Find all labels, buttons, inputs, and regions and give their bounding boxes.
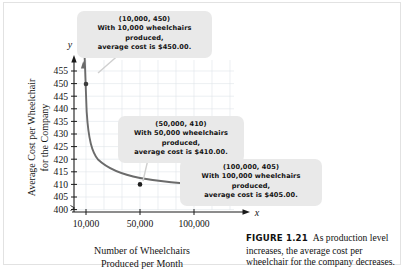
y-axis-title: Average Cost per Wheelchair for the Comp… <box>26 53 51 223</box>
callout-line-1: With 100,000 wheelchairs produced, <box>187 172 315 191</box>
y-axis-variable-label: y <box>67 39 73 50</box>
callout-coordinate: (50,000, 410) <box>125 120 237 129</box>
callout-10000: (10,000, 450) With 10,000 wheelchairs pr… <box>77 11 212 58</box>
y-tick-label: 450 <box>54 78 69 89</box>
callout-50000: (50,000, 410) With 50,000 wheelchairs pr… <box>118 116 244 163</box>
callout-coordinate: (100,000, 405) <box>187 163 315 172</box>
y-tick-label: 440 <box>54 103 69 114</box>
x-tick-label: 100,000 <box>178 218 209 229</box>
x-tick-labels: 10,000 50,000 100,000 <box>73 218 210 229</box>
y-tick-label: 425 <box>54 141 69 152</box>
x-axis-title-line-2: Produced per Month <box>62 258 222 271</box>
y-tick-labels: 455 450 445 440 435 430 425 420 415 410 … <box>54 65 69 215</box>
y-axis-title-line-1: Average Cost per Wheelchair <box>26 53 39 223</box>
y-axis-title-line-2: for the Company <box>38 53 51 223</box>
figure-caption: FIGURE 1.21 As production level increase… <box>246 232 404 268</box>
data-point-10000 <box>84 82 89 87</box>
y-tick-label: 405 <box>54 191 69 202</box>
y-tick-label: 435 <box>54 116 69 127</box>
x-axis-title: Number of Wheelchairs Produced per Month <box>62 245 222 270</box>
figure-root: 455 450 445 440 435 430 425 420 415 410 … <box>0 0 408 274</box>
callout-line-1: With 50,000 wheelchairs produced, <box>125 129 237 148</box>
callout-coordinate: (10,000, 450) <box>84 15 205 24</box>
data-point-50000 <box>138 182 143 187</box>
callout-line-1: With 10,000 wheelchairs produced, <box>84 24 205 43</box>
callout-100000: (100,000, 405) With 100,000 wheelchairs … <box>180 159 322 206</box>
x-tick-label: 50,000 <box>127 218 154 229</box>
callout-line-2: average cost is $405.00. <box>187 191 315 200</box>
y-tick-label: 455 <box>54 65 69 76</box>
x-tick-label: 10,000 <box>73 218 100 229</box>
y-tick-label: 445 <box>54 91 69 102</box>
x-axis <box>72 209 250 214</box>
callout-line-2: average cost is $410.00. <box>125 148 237 157</box>
figure-number-label: FIGURE 1.21 <box>246 233 308 243</box>
y-tick-label: 400 <box>54 204 69 215</box>
y-tick-label: 420 <box>54 154 69 165</box>
y-tick-label: 415 <box>54 166 69 177</box>
y-tick-label: 410 <box>54 179 69 190</box>
callout-line-2: average cost is $450.00. <box>84 43 205 52</box>
x-axis-variable-label: x <box>254 207 260 218</box>
x-axis-title-line-1: Number of Wheelchairs <box>62 245 222 258</box>
y-tick-label: 430 <box>54 128 69 139</box>
